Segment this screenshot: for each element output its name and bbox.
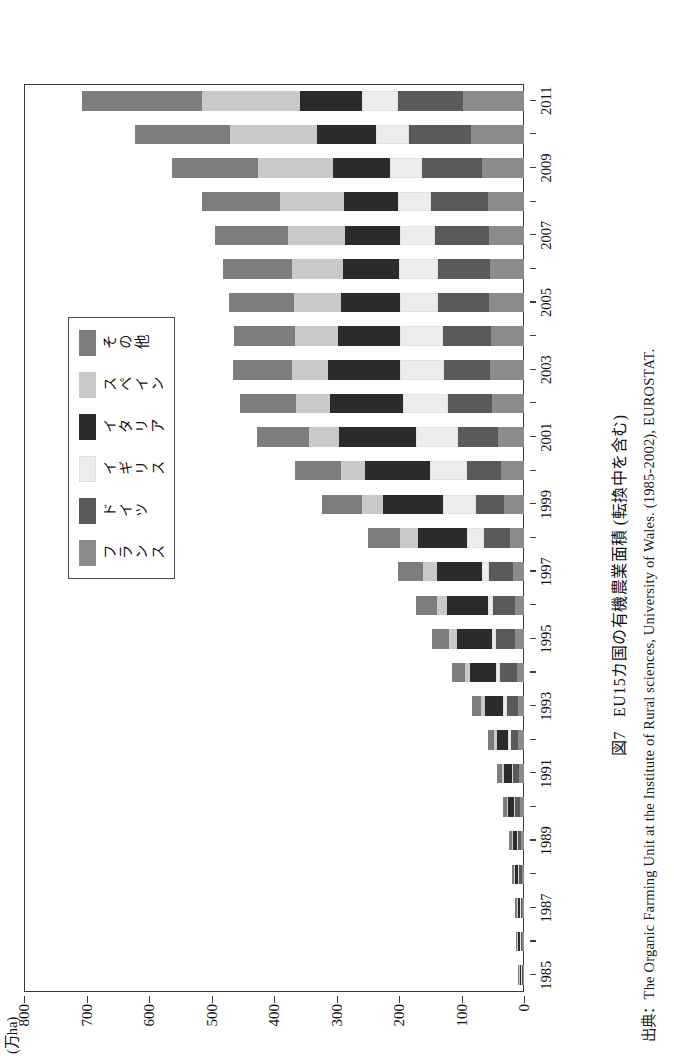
bar-segment bbox=[519, 865, 522, 885]
bar-segment bbox=[362, 91, 398, 111]
value-tick-mark bbox=[337, 996, 338, 1003]
source-note: 出典：The Organic Farming Unit at the Insti… bbox=[637, 349, 658, 1042]
value-tick-mark bbox=[24, 996, 25, 1003]
category-tick-mark bbox=[530, 671, 536, 672]
category-tick-mark bbox=[530, 907, 536, 908]
bar-segment bbox=[368, 528, 401, 548]
bar-segment bbox=[512, 865, 514, 885]
bar-segment bbox=[292, 360, 329, 380]
value-tick-mark bbox=[149, 996, 150, 1003]
bar-segment bbox=[400, 226, 434, 246]
bar-segment bbox=[489, 293, 524, 313]
category-tick-mark bbox=[530, 503, 536, 504]
bar-stack bbox=[24, 259, 524, 279]
legend: フランスドイツイギリスイタリアスペインその他 bbox=[68, 317, 175, 579]
caption-subtitle: (転換中を含む) bbox=[611, 415, 628, 526]
bar-segment bbox=[520, 898, 521, 918]
bar-segment bbox=[492, 629, 496, 649]
bar-segment bbox=[398, 562, 424, 582]
category-tick-label: 2007 bbox=[538, 221, 555, 250]
bar-stack bbox=[24, 226, 524, 246]
bar-segment bbox=[503, 797, 506, 817]
bar-segment bbox=[328, 360, 400, 380]
bar-segment bbox=[515, 797, 519, 817]
caption-number: 図7 bbox=[611, 731, 628, 756]
bar-segment bbox=[234, 326, 295, 346]
bar-segment bbox=[504, 495, 524, 515]
bar-segment bbox=[403, 394, 448, 414]
bar-stack bbox=[24, 965, 524, 985]
bar-stack bbox=[24, 932, 524, 952]
legend-swatch bbox=[79, 414, 96, 440]
legend-swatch bbox=[79, 498, 96, 524]
legend-item: ドイツ bbox=[79, 498, 150, 524]
bar-segment bbox=[330, 394, 404, 414]
bar-segment bbox=[448, 394, 492, 414]
bar-segment bbox=[514, 797, 515, 817]
legend-swatch bbox=[79, 456, 96, 482]
bar-segment bbox=[418, 528, 467, 548]
bar-segment bbox=[501, 461, 524, 481]
bar-segment bbox=[449, 629, 457, 649]
bar-stack bbox=[24, 596, 524, 616]
bar-segment bbox=[482, 562, 490, 582]
category-tick-mark bbox=[530, 201, 536, 202]
bar-segment bbox=[502, 764, 505, 784]
bar-segment bbox=[444, 360, 490, 380]
bar-stack bbox=[24, 629, 524, 649]
bar-segment bbox=[511, 730, 519, 750]
caption-title: EU15カ国の有機農業面積 bbox=[611, 529, 628, 717]
bar-segment bbox=[431, 192, 488, 212]
bar-segment bbox=[517, 898, 518, 918]
bar-segment bbox=[481, 696, 485, 716]
bar-segment bbox=[467, 528, 485, 548]
category-tick-label: 1997 bbox=[538, 557, 555, 586]
bar-segment bbox=[500, 663, 517, 683]
category-tick-mark bbox=[530, 570, 536, 571]
bar-segment bbox=[390, 158, 423, 178]
value-tick-label: 500 bbox=[203, 1004, 220, 1027]
category-tick-mark bbox=[530, 402, 536, 403]
bar-stack bbox=[24, 663, 524, 683]
bar-segment bbox=[515, 898, 516, 918]
bar-segment bbox=[416, 427, 459, 447]
bar-segment bbox=[292, 259, 343, 279]
bar-segment bbox=[322, 495, 361, 515]
category-tick-mark bbox=[530, 772, 536, 773]
bar-segment bbox=[422, 158, 481, 178]
legend-label: スペイン bbox=[102, 374, 166, 395]
bar-segment bbox=[400, 326, 443, 346]
bar-segment bbox=[522, 965, 523, 985]
value-tick-mark bbox=[524, 996, 525, 1003]
bar-stack bbox=[24, 158, 524, 178]
bar-segment bbox=[513, 764, 519, 784]
bar-segment bbox=[215, 226, 289, 246]
bar-stack bbox=[24, 865, 524, 885]
bar-segment bbox=[345, 226, 400, 246]
bar-segment bbox=[443, 495, 476, 515]
bar-segment bbox=[365, 461, 430, 481]
bar-segment bbox=[376, 125, 409, 145]
bar-segment bbox=[488, 730, 494, 750]
legend-item: スペイン bbox=[79, 372, 166, 398]
bar-segment bbox=[443, 326, 491, 346]
bar-segment bbox=[521, 965, 522, 985]
bar-segment bbox=[520, 797, 524, 817]
category-tick-label: 1985 bbox=[538, 961, 555, 990]
bar-segment bbox=[494, 730, 497, 750]
bar-segment bbox=[362, 495, 384, 515]
bar-segment bbox=[520, 932, 522, 952]
bar-segment bbox=[230, 125, 318, 145]
category-tick-label: 2005 bbox=[538, 288, 555, 317]
category-tick-mark bbox=[530, 705, 536, 706]
bar-segment bbox=[491, 326, 524, 346]
bar-stack bbox=[24, 293, 524, 313]
bar-segment bbox=[437, 562, 482, 582]
bar-segment bbox=[300, 91, 363, 111]
bar-segment bbox=[409, 125, 471, 145]
bar-segment bbox=[484, 528, 510, 548]
bar-segment bbox=[430, 461, 466, 481]
bar-segment bbox=[509, 831, 512, 851]
bar-segment bbox=[447, 596, 488, 616]
bar-segment bbox=[519, 965, 520, 985]
